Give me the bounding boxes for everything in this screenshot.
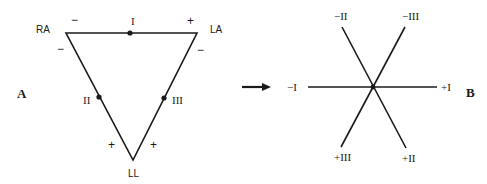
axis-pos-iii-label: +III (334, 151, 352, 163)
lead-i-positive-sign: + (187, 14, 194, 28)
lead-ii-positive-sign: + (108, 138, 115, 152)
vertex-ll-label: LL (128, 168, 140, 179)
lead-i-label: I (131, 15, 135, 27)
triaxial-reference-system: −I +I −II −III +III +II B (287, 10, 475, 164)
panel-b-label: B (466, 85, 475, 100)
lead-iii-negative-sign: − (197, 43, 204, 57)
vertex-ra-label: RA (36, 24, 50, 35)
lead-i-midpoint-dot (127, 30, 132, 35)
axis-pos-ii-label: +II (402, 152, 416, 164)
lead-iii-positive-sign: + (150, 138, 157, 152)
lead-iii-midpoint-dot (161, 95, 166, 100)
panel-a-label: A (17, 86, 27, 101)
lead-iii-label: III (172, 94, 183, 106)
vertex-la-label: LA (210, 24, 223, 35)
axis-neg-i-label: −I (287, 81, 297, 93)
axis-neg-iii-label: −III (402, 10, 420, 22)
lead-i-negative-sign: − (71, 13, 78, 27)
axis-center-dot (371, 85, 376, 90)
lead-ii-midpoint-dot (96, 94, 101, 99)
lead-ii-label: II (83, 94, 91, 106)
axis-pos-i-label: +I (441, 81, 451, 93)
right-arrow-icon (242, 83, 271, 91)
axis-neg-ii-label: −II (334, 10, 348, 22)
einthoven-triangle: RA LA LL I II III − + − − + + A (17, 13, 223, 179)
einthoven-diagram: RA LA LL I II III − + − − + + A −I +I −I… (0, 0, 487, 184)
lead-ii-negative-sign: − (57, 42, 64, 56)
